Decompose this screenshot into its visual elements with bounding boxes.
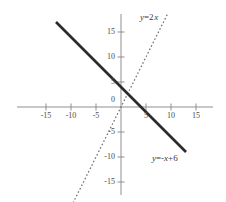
- series-annotation-y-equals-neg-x-plus-6: y=-x+6: [152, 154, 178, 163]
- x-tick-label-neg15: -15: [41, 112, 52, 120]
- x-tick-label-neg5: -5: [93, 112, 100, 120]
- x-tick-label-10: 10: [167, 112, 175, 120]
- y-tick-label-neg15: -15: [104, 178, 115, 186]
- y-tick-label-neg10: -10: [104, 153, 115, 161]
- y-tick-label-5: 5: [111, 78, 115, 86]
- y-tick-label-15: 15: [107, 28, 115, 36]
- series-annotation-variable: x: [154, 12, 158, 22]
- graph-figure: -15 -10 -5 5 10 15 15 10 5 0 -5 -10 -15 …: [0, 0, 226, 202]
- x-tick-label-15: 15: [192, 112, 200, 120]
- y-tick-label-neg5: -5: [108, 128, 115, 136]
- y-tick-label-10: 10: [107, 53, 115, 61]
- x-tick-label-5: 5: [144, 112, 148, 120]
- y-tick-label-0: 0: [111, 96, 115, 104]
- series-annotation-coefficient: 2: [149, 12, 154, 22]
- x-tick-label-neg10: -10: [66, 112, 77, 120]
- series2-annotation-intercept: 6: [173, 153, 178, 163]
- series-annotation-y-equals-2x: y=2 x: [140, 13, 158, 22]
